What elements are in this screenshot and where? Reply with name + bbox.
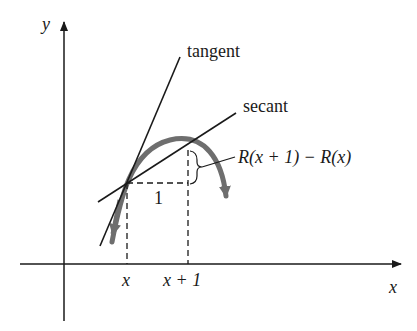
- tick-label-x-plus-1: x + 1: [163, 271, 201, 289]
- rise-brace: [190, 151, 202, 184]
- secant-label: secant: [243, 97, 288, 115]
- difference-label: R(x + 1) − R(x): [238, 148, 351, 166]
- x-axis-label: x: [389, 278, 397, 296]
- tangent-line: [100, 57, 180, 246]
- tick-label-x: x: [122, 271, 130, 289]
- run-label: 1: [154, 189, 163, 207]
- y-axis-label: y: [42, 15, 50, 33]
- function-curve: [112, 139, 226, 242]
- secant-tangent-diagram: y x tangent secant R(x + 1) − R(x) 1 x x…: [0, 0, 417, 331]
- tangent-label: tangent: [187, 42, 240, 60]
